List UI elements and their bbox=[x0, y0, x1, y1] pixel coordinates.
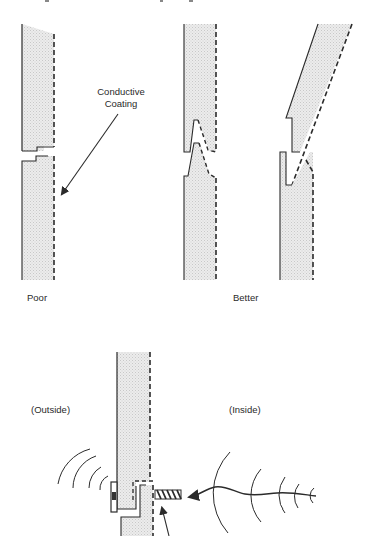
poor-joint bbox=[22, 24, 54, 280]
screw-callout-arrow bbox=[162, 508, 169, 536]
poor-upper-panel bbox=[22, 24, 54, 151]
better-joint-tongue bbox=[184, 24, 216, 280]
bottom-shielding-illustration bbox=[58, 352, 316, 536]
coating-callout-arrow bbox=[62, 114, 118, 194]
callout-line-1: Conductive bbox=[86, 86, 156, 98]
screw-icon bbox=[155, 490, 181, 499]
diagram-canvas bbox=[0, 0, 366, 536]
clipped-text-fragment bbox=[45, 0, 193, 2]
emi-wave-inside-icon bbox=[190, 452, 316, 533]
better-lower-panel bbox=[184, 143, 216, 280]
poor-lower-panel bbox=[22, 156, 54, 280]
emi-wave-outside-icon bbox=[58, 449, 108, 490]
caption-poor: Poor bbox=[27, 292, 47, 304]
better-upper-panel bbox=[184, 24, 216, 152]
better-joint-slanted bbox=[280, 24, 352, 280]
caption-better: Better bbox=[233, 292, 258, 304]
slanted-lower-panel bbox=[280, 152, 313, 280]
label-outside: (Outside) bbox=[31, 404, 70, 416]
conductive-coating-callout: Conductive Coating bbox=[86, 86, 156, 110]
label-inside: (Inside) bbox=[229, 404, 261, 416]
callout-line-2: Coating bbox=[86, 98, 156, 110]
